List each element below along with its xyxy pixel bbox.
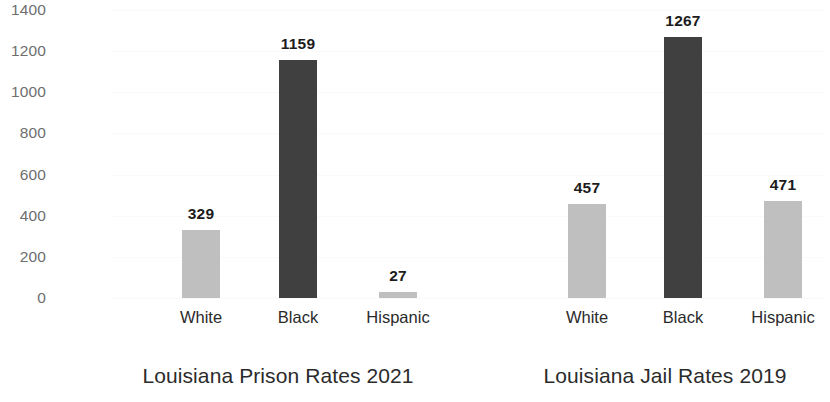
bar-value-label: 1267 (665, 12, 700, 30)
bar-value-label: 1159 (281, 35, 315, 53)
bar-value-label: 329 (188, 205, 214, 223)
bar-group: 1159Black (253, 0, 343, 298)
bar-white[interactable] (182, 230, 220, 298)
y-axis-tick-label: 200 (20, 248, 46, 266)
y-axis-tick-label: 600 (20, 166, 46, 184)
bar-black[interactable] (664, 37, 702, 298)
y-axis-tick-label: 0 (37, 289, 46, 307)
chart-title-prison: Louisiana Prison Rates 2021 (108, 364, 448, 388)
bar-value-label: 457 (574, 179, 600, 197)
bar-black[interactable] (279, 60, 317, 298)
plot-area-jail: 457White1267Black471Hispanic (500, 0, 830, 298)
bar-group: 471Hispanic (738, 0, 828, 298)
y-axis-tick-label: 1200 (11, 42, 46, 60)
bar-white[interactable] (568, 204, 606, 298)
chart-panel-prison: 329White1159Black27Hispanic Louisiana Pr… (108, 0, 448, 402)
bar-group: 457White (542, 0, 632, 298)
chart-panel-jail: 457White1267Black471Hispanic Louisiana J… (500, 0, 830, 402)
chart-title-jail: Louisiana Jail Rates 2019 (500, 364, 830, 388)
x-axis-category-label: Hispanic (751, 308, 814, 327)
x-axis-category-label: White (566, 308, 608, 327)
plot-area-prison: 329White1159Black27Hispanic (108, 0, 448, 298)
y-axis-tick-label: 1400 (11, 1, 46, 19)
y-axis: 0200400600800100012001400 (0, 0, 108, 320)
bar-group: 27Hispanic (353, 0, 443, 298)
y-axis-tick-label: 800 (20, 124, 46, 142)
bar-hispanic[interactable] (379, 292, 417, 298)
x-axis-category-label: Hispanic (366, 308, 429, 327)
x-axis-category-label: White (180, 308, 222, 327)
x-axis-category-label: Black (278, 308, 318, 327)
bar-group: 329White (156, 0, 246, 298)
bar-value-label: 471 (770, 176, 796, 194)
bar-group: 1267Black (638, 0, 728, 298)
dual-bar-chart-figure: 0200400600800100012001400 329White1159Bl… (0, 0, 830, 402)
y-axis-tick-label: 1000 (11, 83, 46, 101)
bar-hispanic[interactable] (764, 201, 802, 298)
x-axis-category-label: Black (663, 308, 703, 327)
bar-value-label: 27 (389, 267, 407, 285)
y-axis-tick-label: 400 (20, 207, 46, 225)
